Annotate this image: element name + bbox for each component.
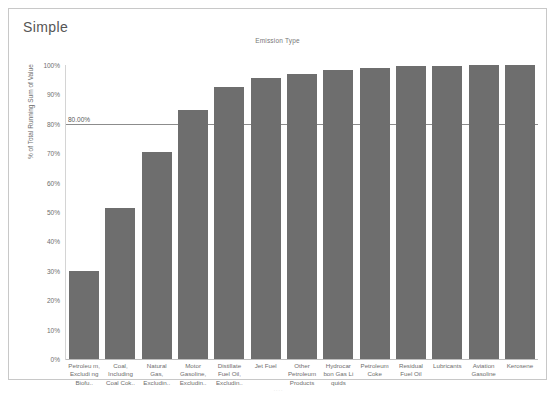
bar-10[interactable] xyxy=(432,66,462,359)
y-axis-tick: 10% xyxy=(47,326,60,333)
x-axis-label-8[interactable]: Petroleum Coke xyxy=(357,362,393,387)
bar-2[interactable] xyxy=(142,152,172,359)
x-axis-label-6[interactable]: Other Petroleum Products xyxy=(284,362,320,387)
chart-column-header: Emission Type xyxy=(9,37,546,44)
x-axis-label-5[interactable]: Jet Fuel xyxy=(248,362,284,387)
y-axis-title: % of Total Running Sum of Value xyxy=(27,64,34,159)
bar-slot xyxy=(465,65,501,359)
x-axis-label-2[interactable]: Natural Gas, Excludin.. xyxy=(139,362,175,387)
visualization-frame: Simple Emission Type % of Total Running … xyxy=(8,8,547,380)
x-axis-label-9[interactable]: Residual Fuel Oil xyxy=(393,362,429,387)
bar-slot xyxy=(102,65,138,359)
bar-5[interactable] xyxy=(251,78,281,359)
bar-4[interactable] xyxy=(214,87,244,359)
x-axis-label-0[interactable]: Petroleu m, Excludi ng Biofu.. xyxy=(66,362,102,387)
bar-slot xyxy=(284,65,320,359)
bar-slot xyxy=(429,65,465,359)
x-axis-label-group: Petroleu m, Excludi ng Biofu..Coal, Incl… xyxy=(66,362,538,387)
bar-slot xyxy=(393,65,429,359)
bar-slot xyxy=(175,65,211,359)
bar-11[interactable] xyxy=(469,65,499,359)
bar-7[interactable] xyxy=(323,70,353,359)
worksheet-title: Simple xyxy=(23,19,68,35)
x-axis-label-11[interactable]: Aviation Gasoline xyxy=(465,362,501,387)
bar-6[interactable] xyxy=(287,74,317,359)
y-axis-tick: 100% xyxy=(43,62,60,69)
bar-series xyxy=(66,65,538,359)
bar-3[interactable] xyxy=(178,110,208,359)
y-axis-tick: 70% xyxy=(47,150,60,157)
x-axis-label-10[interactable]: Lubricants xyxy=(429,362,465,387)
bar-slot xyxy=(502,65,538,359)
y-axis-tick: 60% xyxy=(47,179,60,186)
x-axis-label-1[interactable]: Coal, Including Coal Cok.. xyxy=(102,362,138,387)
y-axis-tick: 50% xyxy=(47,209,60,216)
x-axis-label-4[interactable]: Distillate Fuel Oil, Excludin.. xyxy=(211,362,247,387)
y-axis-tick: 40% xyxy=(47,238,60,245)
y-axis-tick: 20% xyxy=(47,297,60,304)
plot-area: 0%10%20%30%40%50%60%70%80%90%100% 80.00% xyxy=(66,65,538,359)
x-axis-label-12[interactable]: Kerosene xyxy=(502,362,538,387)
bar-8[interactable] xyxy=(360,68,390,359)
y-axis-tick: 90% xyxy=(47,91,60,98)
bar-9[interactable] xyxy=(396,66,426,359)
bar-0[interactable] xyxy=(69,271,99,359)
x-axis-label-3[interactable]: Motor Gasoline, Excludin.. xyxy=(175,362,211,387)
bar-slot xyxy=(357,65,393,359)
x-axis-label-7[interactable]: Hydrocar bon Gas Li quids xyxy=(320,362,356,387)
bar-1[interactable] xyxy=(105,208,135,359)
bar-slot xyxy=(66,65,102,359)
y-axis-tick: 80% xyxy=(47,120,60,127)
footer-mark: .... xyxy=(0,386,557,392)
y-axis-tick: 0% xyxy=(51,356,60,363)
bar-slot xyxy=(320,65,356,359)
y-axis-tick: 30% xyxy=(47,267,60,274)
bar-slot xyxy=(248,65,284,359)
bar-slot xyxy=(211,65,247,359)
bar-12[interactable] xyxy=(505,65,535,359)
x-axis-baseline xyxy=(66,359,538,360)
bar-slot xyxy=(139,65,175,359)
